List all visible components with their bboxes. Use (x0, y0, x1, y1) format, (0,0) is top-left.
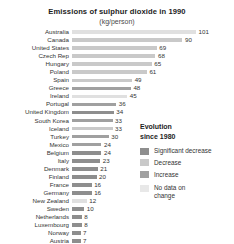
bar-row-label: South Korea (4, 117, 72, 125)
bar-row: Australia101 (4, 28, 230, 36)
bar-value-label: 20 (97, 173, 106, 181)
legend-item-label: Increase (154, 171, 179, 179)
bar-value-label: 7 (81, 229, 87, 237)
bar-value-label: 16 (92, 181, 101, 189)
bar (72, 46, 157, 50)
legend-item-sig-decrease: Significant decrease (140, 147, 234, 155)
bar (72, 103, 116, 107)
bar-value-label: 65 (152, 60, 161, 68)
bar-track: 36 (72, 100, 230, 108)
bar-track: 69 (72, 44, 230, 52)
legend-swatch-icon (140, 171, 149, 178)
bar-value-label: 34 (114, 108, 123, 116)
bar-row-label: Finland (4, 173, 72, 181)
legend-items: Significant decreaseDecreaseIncreaseNo d… (140, 147, 234, 199)
bar-value-label: 12 (87, 197, 96, 205)
bar-row-label: Denmark (4, 165, 72, 173)
legend-item-decrease: Decrease (140, 159, 234, 167)
bar (72, 54, 155, 58)
bar-row-label: Portugal (4, 100, 72, 108)
bar-value-label: 7 (81, 237, 87, 244)
bar (72, 87, 131, 91)
bar (72, 38, 182, 42)
bar-row-label: Turkey (4, 133, 72, 141)
bar-row: Ireland45 (4, 92, 230, 100)
bar-row-label: Netherlands (4, 213, 72, 221)
bar-row-label: Mexico (4, 141, 72, 149)
bar-value-label: 61 (147, 68, 156, 76)
bar (72, 215, 82, 219)
bar-row-label: Australia (4, 28, 72, 36)
bar-value-label: 24 (101, 141, 110, 149)
bar-row-label: Hungary (4, 60, 72, 68)
bar-value-label: 49 (132, 76, 141, 84)
bar (72, 119, 113, 123)
bar-row: Canada90 (4, 36, 230, 44)
bar (72, 95, 127, 99)
bar-value-label: 33 (113, 117, 122, 125)
bar-row: Netherlands8 (4, 213, 230, 221)
bar-value-label: 30 (109, 133, 118, 141)
bar (72, 62, 152, 66)
bar (72, 183, 92, 187)
bar (72, 111, 114, 115)
bar-row-label: Austria (4, 237, 72, 244)
bar-row: United States69 (4, 44, 230, 52)
bar-row: Austria7 (4, 237, 230, 244)
bar-row-label: Spain (4, 76, 72, 84)
bar-row-label: New Zealand (4, 197, 72, 205)
bar-row: Luxembourg8 (4, 221, 230, 229)
bar-value-label: 90 (182, 36, 191, 44)
bar-row: Sweden10 (4, 205, 230, 213)
bar-track: 90 (72, 36, 230, 44)
bar-row-label: Germany (4, 189, 72, 197)
bar (72, 223, 82, 227)
bar (72, 199, 87, 203)
bar-row-label: United States (4, 44, 72, 52)
bar (72, 143, 101, 147)
bar-track: 61 (72, 68, 230, 76)
bar (72, 231, 81, 235)
bar-row-label: Sweden (4, 205, 72, 213)
bar-value-label: 8 (82, 221, 88, 229)
bar (72, 239, 81, 243)
bar (72, 151, 101, 155)
chart-legend: Evolution since 1980 Significant decreas… (140, 122, 234, 204)
bar-row: Poland61 (4, 68, 230, 76)
bar-row-label: France (4, 181, 72, 189)
bar-row-label: Luxembourg (4, 221, 72, 229)
bar-row: Hungary65 (4, 60, 230, 68)
bar-row: Czech Rep68 (4, 52, 230, 60)
bar-track: 101 (72, 28, 230, 36)
bar-track: 7 (72, 229, 230, 237)
bar-track: 8 (72, 221, 230, 229)
bar-value-label: 8 (82, 213, 88, 221)
bar-value-label: 24 (101, 149, 110, 157)
bar-track: 10 (72, 205, 230, 213)
bar-row: Norway7 (4, 229, 230, 237)
legend-item-label: No data onchange (154, 184, 185, 199)
bar-row-label: Czech Rep (4, 52, 72, 60)
bar-row-label: Greece (4, 84, 72, 92)
bar (72, 175, 97, 179)
bar-value-label: 10 (84, 205, 93, 213)
bar (72, 191, 92, 195)
bar-row: Greece48 (4, 84, 230, 92)
bar-row-label: Iceland (4, 125, 72, 133)
bar-track: 68 (72, 52, 230, 60)
bar-row-label: Norway (4, 229, 72, 237)
bar-value-label: 45 (127, 92, 136, 100)
bar-value-label: 68 (155, 52, 164, 60)
bar (72, 70, 147, 74)
legend-item-label: Significant decrease (154, 147, 212, 155)
bar-track: 65 (72, 60, 230, 68)
bar-value-label: 21 (98, 165, 107, 173)
bar-row-label: Canada (4, 36, 72, 44)
chart-subtitle: (kg/person) (4, 17, 230, 26)
bar-track: 49 (72, 76, 230, 84)
bar-track: 7 (72, 237, 230, 244)
bar-row-label: Poland (4, 68, 72, 76)
bar-row-label: United Kingdom (4, 108, 72, 116)
bar (72, 167, 98, 171)
legend-swatch-icon (140, 148, 149, 155)
